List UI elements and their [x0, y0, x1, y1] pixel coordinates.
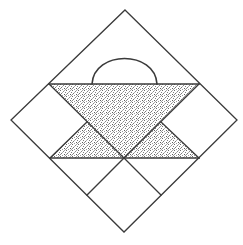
lower-right-line [124, 158, 161, 195]
lower-left-line [87, 158, 124, 195]
diagram-svg [0, 0, 243, 245]
quilt-block-diagram [0, 0, 243, 245]
basket-handle-arc [92, 59, 157, 85]
